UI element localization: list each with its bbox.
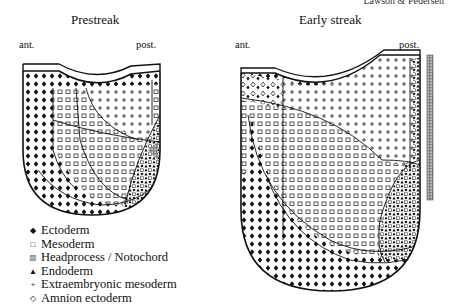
legend-item-endoderm: ▲ Endoderm (28, 265, 177, 279)
open-diamond-icon: ◇ (28, 292, 38, 306)
prestreak-diagram (20, 65, 165, 220)
legend-label: Ectoderm (41, 224, 90, 238)
legend-label: Headprocess / Notochord (41, 251, 168, 265)
open-square-icon: □ (28, 238, 38, 252)
early-streak-diagram (238, 50, 428, 295)
legend-item-mesoderm: □ Mesoderm (28, 238, 177, 252)
legend-label: Amnion ectoderm (41, 292, 132, 306)
filled-diamond-icon: ◆ (28, 224, 38, 238)
legend-item-extraembryonic-mesoderm: + Extraembryonic mesoderm (28, 278, 177, 292)
legend-label: Endoderm (41, 265, 93, 279)
legend-item-headprocess: ▩ Headprocess / Notochord (28, 251, 177, 265)
headprocess-bar (427, 55, 433, 200)
gray-hatch-icon: ▩ (28, 251, 38, 265)
plus-icon: + (28, 278, 38, 292)
legend-item-ectoderm: ◆ Ectoderm (28, 224, 177, 238)
legend-label: Extraembryonic mesoderm (41, 278, 177, 292)
filled-triangle-icon: ▲ (28, 265, 38, 279)
legend-item-amnion-ectoderm: ◇ Amnion ectoderm (28, 292, 177, 306)
legend: ◆ Ectoderm □ Mesoderm ▩ Headprocess / No… (28, 224, 177, 306)
legend-label: Mesoderm (41, 238, 94, 252)
